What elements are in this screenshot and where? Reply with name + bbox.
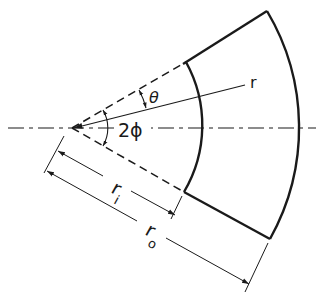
radius-r-line: [74, 85, 245, 128]
radius-r-label: r: [250, 73, 257, 92]
inner-extension-line: [171, 196, 182, 219]
theta-arc: [139, 90, 146, 108]
two-phi-label: 2ϕ: [118, 119, 143, 141]
inner-arc: [184, 62, 202, 192]
sector-diagram: r θ 2ϕ r i r o: [0, 0, 323, 297]
r-inner-dimension-left: [58, 151, 103, 176]
r-outer-label: r o: [138, 218, 167, 252]
outer-arc: [267, 11, 299, 239]
theta-label: θ: [149, 88, 159, 107]
r-outer-dimension-right: [166, 238, 249, 284]
r-inner-dimension-right: [131, 191, 175, 215]
r-inner-label: r i: [105, 176, 129, 207]
upper-edge-solid: [183, 11, 267, 64]
outer-extension-line: [245, 243, 268, 292]
apex-extension-line: [44, 136, 64, 173]
lower-edge-solid: [184, 192, 270, 239]
